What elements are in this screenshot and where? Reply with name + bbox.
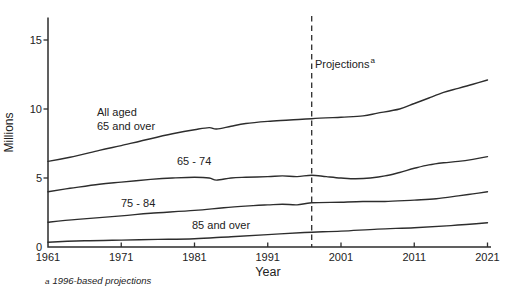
x-tick-label: 2001 [323, 251, 359, 264]
series-label-all-65-and-over: All aged 65 and over [97, 106, 155, 133]
x-tick-label: 2011 [396, 251, 432, 264]
y-axis-title: Millions [3, 95, 18, 171]
projections-annotation: Projectionsa [315, 56, 375, 70]
y-tick-label: 5 [24, 172, 42, 185]
x-tick-label: 1971 [103, 251, 139, 264]
population-projections-chart: Millions Year 05101519611971198119912001… [0, 0, 511, 303]
projections-annotation-text: Projections [315, 58, 369, 70]
series-label-line-1: All aged [97, 106, 155, 120]
x-tick-label: 1961 [30, 251, 66, 264]
x-axis-title: Year [244, 265, 292, 279]
footnote-text: 1996-based projections [52, 275, 151, 286]
x-tick-label: 1991 [250, 251, 286, 264]
series-label-85-and-over: 85 and over [192, 219, 250, 232]
series-line-2 [48, 192, 488, 222]
footnote-marker: a [45, 277, 49, 286]
series-label-line-2: 65 and over [97, 120, 155, 134]
projections-footnote-marker: a [370, 56, 374, 65]
footnote: a1996-based projections [45, 276, 151, 287]
series-line-3 [48, 223, 488, 242]
series-line-1 [48, 157, 488, 192]
x-tick-label: 2021 [470, 251, 506, 264]
y-tick-label: 10 [24, 103, 42, 116]
series-label-75-84: 75 - 84 [121, 197, 155, 210]
x-tick-label: 1981 [177, 251, 213, 264]
series-label-65-74: 65 - 74 [177, 155, 211, 168]
y-tick-label: 15 [24, 34, 42, 47]
